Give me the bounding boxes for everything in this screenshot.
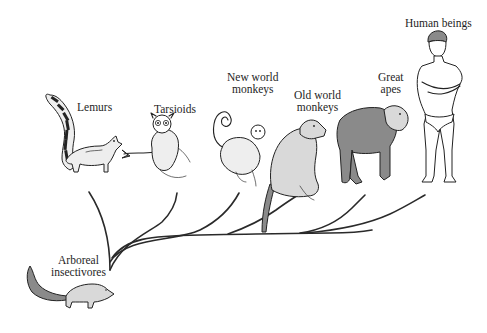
label-new-world-monkeys: New world monkeys xyxy=(227,71,278,95)
primate-evolution-diagram: Lemurs Tarsioids New world monkeys Old w… xyxy=(0,0,487,333)
label-human-beings: Human beings xyxy=(405,17,472,29)
branch-trunk xyxy=(112,230,372,258)
great-ape-illustration xyxy=(337,106,408,184)
label-great-apes: Great apes xyxy=(378,71,404,95)
label-tarsioids: Tarsioids xyxy=(154,103,196,115)
tarsier-illustration xyxy=(122,113,190,178)
phylogenetic-tree xyxy=(0,0,487,333)
tree-branches xyxy=(89,192,425,270)
human-illustration xyxy=(417,31,462,182)
branch-tarsioids xyxy=(110,193,177,270)
new-world-monkey-illustration xyxy=(214,112,266,186)
label-old-world-monkeys: Old world monkeys xyxy=(294,89,341,113)
old-world-monkey-illustration xyxy=(262,120,326,232)
label-lemurs: Lemurs xyxy=(77,101,112,113)
label-arboreal-insectivores: Arboreal insectivores xyxy=(51,254,106,278)
branch-great-apes xyxy=(300,195,365,233)
